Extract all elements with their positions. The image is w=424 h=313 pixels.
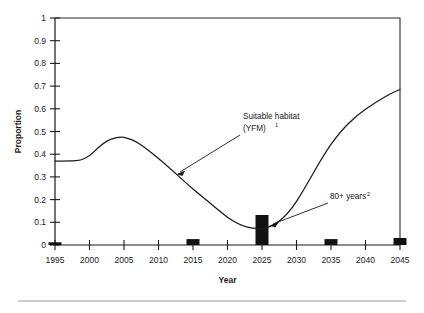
annotation-suitable-habitat-line1: Suitable habitat <box>243 112 300 121</box>
plot-frame <box>55 18 400 245</box>
annotation-80-plus-years-label: 80+ years <box>330 192 366 201</box>
x-tick-label: 2025 <box>253 255 272 265</box>
x-tick-label: 2040 <box>356 255 375 265</box>
annotation-suitable-habitat-leader-line <box>180 135 240 172</box>
x-tick-label: 2030 <box>287 255 306 265</box>
annotation-80-plus-years: 80+ years 2 <box>270 191 371 228</box>
annotation-suitable-habitat-superscript: 1 <box>275 122 278 128</box>
y-tick-label: 0.3 <box>34 172 46 182</box>
x-axis-title: Year <box>219 275 238 285</box>
y-tick-label: 0.9 <box>34 36 46 46</box>
annotation-80-plus-years-leader-line <box>273 203 328 224</box>
chart-figure: 0 0.1 0.2 0.3 0.4 0.5 0.6 0.7 0.8 0.9 1 <box>0 0 424 313</box>
y-tick-label: 0.1 <box>34 217 46 227</box>
annotation-suitable-habitat: Suitable habitat (YFM) 1 <box>177 112 301 176</box>
x-tick-label: 2045 <box>391 255 410 265</box>
annotation-suitable-habitat-line2: (YFM) <box>243 124 266 133</box>
bar-2025 <box>256 215 269 245</box>
y-tick-label: 0.7 <box>34 81 46 91</box>
proportion-by-year-chart: 0 0.1 0.2 0.3 0.4 0.5 0.6 0.7 0.8 0.9 1 <box>0 0 424 313</box>
y-tick-label: 0.4 <box>34 149 46 159</box>
bar-2015 <box>187 239 200 245</box>
y-tick-label: 0.8 <box>34 58 46 68</box>
bar-2045 <box>394 238 407 245</box>
line-series-suitable-habitat <box>55 90 400 229</box>
x-tick-label: 2015 <box>184 255 203 265</box>
x-tick-label: 2020 <box>218 255 237 265</box>
y-tick-label: 1 <box>41 13 46 23</box>
x-axis-tick-labels: 1995 2000 2005 2010 2015 2020 2025 2030 … <box>46 255 410 265</box>
x-tick-label: 2035 <box>322 255 341 265</box>
y-tick-label: 0.2 <box>34 195 46 205</box>
y-axis-tick-labels: 0 0.1 0.2 0.3 0.4 0.5 0.6 0.7 0.8 0.9 1 <box>34 13 46 250</box>
x-tick-label: 2005 <box>115 255 134 265</box>
y-tick-label: 0.6 <box>34 104 46 114</box>
y-tick-label: 0.5 <box>34 127 46 137</box>
x-tick-label: 2010 <box>149 255 168 265</box>
bar-2035 <box>325 239 338 245</box>
y-axis-title: Proportion <box>13 110 23 153</box>
bar-1995 <box>49 242 62 245</box>
annotation-80-plus-years-superscript: 2 <box>367 191 370 197</box>
x-tick-label: 2000 <box>80 255 99 265</box>
y-tick-label: 0 <box>41 240 46 250</box>
x-tick-label: 1995 <box>46 255 65 265</box>
